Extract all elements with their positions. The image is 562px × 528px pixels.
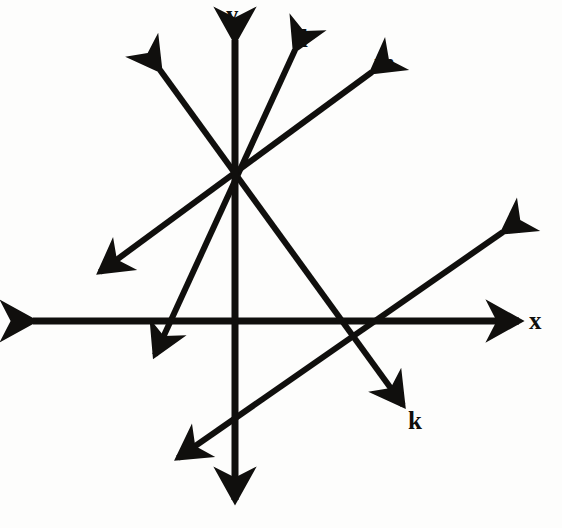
axis-label-y: y bbox=[226, 2, 239, 27]
line-label-l: l bbox=[301, 26, 308, 51]
geometry-diagram-canvas: y l m n x k bbox=[0, 0, 562, 528]
figure-svg bbox=[0, 0, 562, 528]
line-label-m: m bbox=[374, 50, 395, 75]
line-k bbox=[160, 70, 403, 405]
line-label-k: k bbox=[408, 408, 422, 433]
line-label-n: n bbox=[506, 212, 520, 237]
line-n bbox=[178, 232, 503, 458]
axis-label-x: x bbox=[529, 308, 542, 333]
